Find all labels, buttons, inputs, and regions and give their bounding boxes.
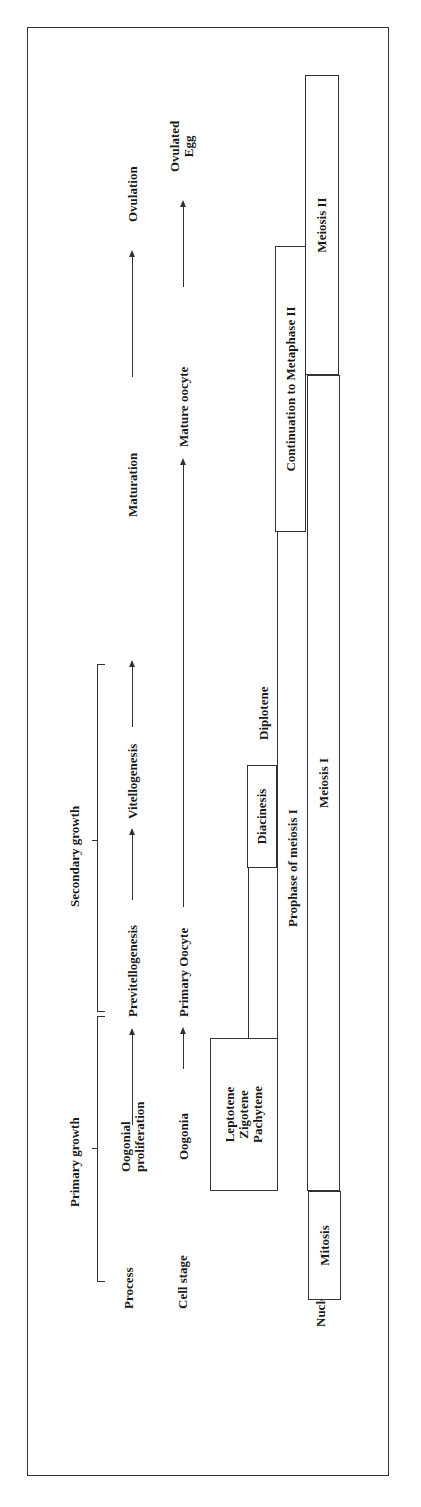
row-label-process: Process xyxy=(122,1267,136,1309)
primary-growth-bracket-tick xyxy=(92,1148,98,1149)
process-maturation: Maturation xyxy=(126,453,140,517)
nucleus-prophase-meiosis-1: Prophase of meiosis I xyxy=(286,809,300,927)
nucleus-meiosis-1-box: Meiosis I xyxy=(307,375,340,1191)
arrow-previtellogenesis-to-vitellogenesis xyxy=(132,830,133,900)
nucleus-mitosis-box: Mitosis xyxy=(308,1191,341,1300)
row-label-cell-stage: Cell stage xyxy=(176,1255,190,1309)
nucleus-diacinesis-box: Diacinesis xyxy=(247,765,277,868)
oogenesis-diagram: Process Cell stage Nucleus phase Primary… xyxy=(0,0,421,1507)
arrow-vitellogenesis-to-maturation xyxy=(132,662,133,727)
arrow-primary-to-mature-oocyte xyxy=(183,460,184,907)
nucleus-continuation-metaphase-2-box: Continuation to Metaphase II xyxy=(275,246,306,532)
nucleus-meiosis-2-box: Meiosis II xyxy=(305,75,339,375)
cell-stage-ovulated-egg: Ovulated Egg xyxy=(168,121,196,172)
nucleus-lep-zyg-pach-box: Leptotene Zigotene Pachytene xyxy=(210,1038,278,1191)
cell-stage-mature-oocyte: Mature oocyte xyxy=(177,367,191,447)
arrow-oogonia-to-primary-oocyte xyxy=(183,1029,184,1069)
primary-growth-bracket xyxy=(97,1016,105,1282)
secondary-growth-bracket-tick xyxy=(92,840,98,841)
arrow-mature-oocyte-to-ovulated-egg xyxy=(183,202,184,287)
arrow-oogonial-to-previtellogenesis xyxy=(132,1030,133,1125)
process-previtellogenesis: Previtellogenesis xyxy=(126,925,140,1017)
cell-stage-primary-oocyte: Primary Oocyte xyxy=(177,928,191,1017)
process-vitellogenesis: Vitellogenesis xyxy=(126,744,140,819)
secondary-growth-label: Secondary growth xyxy=(68,806,82,907)
arrow-maturation-to-ovulation xyxy=(132,252,133,377)
secondary-growth-bracket xyxy=(97,664,105,1012)
process-oogonial-proliferation: Oogonial proliferation xyxy=(119,1101,147,1172)
primary-growth-label: Primary growth xyxy=(68,1117,82,1207)
process-ovulation: Ovulation xyxy=(126,166,140,222)
cell-stage-oogonia: Oogonia xyxy=(177,1113,191,1160)
diplotene-boundary-line xyxy=(248,868,249,1038)
nucleus-diplotene: Diplotene xyxy=(257,687,271,740)
